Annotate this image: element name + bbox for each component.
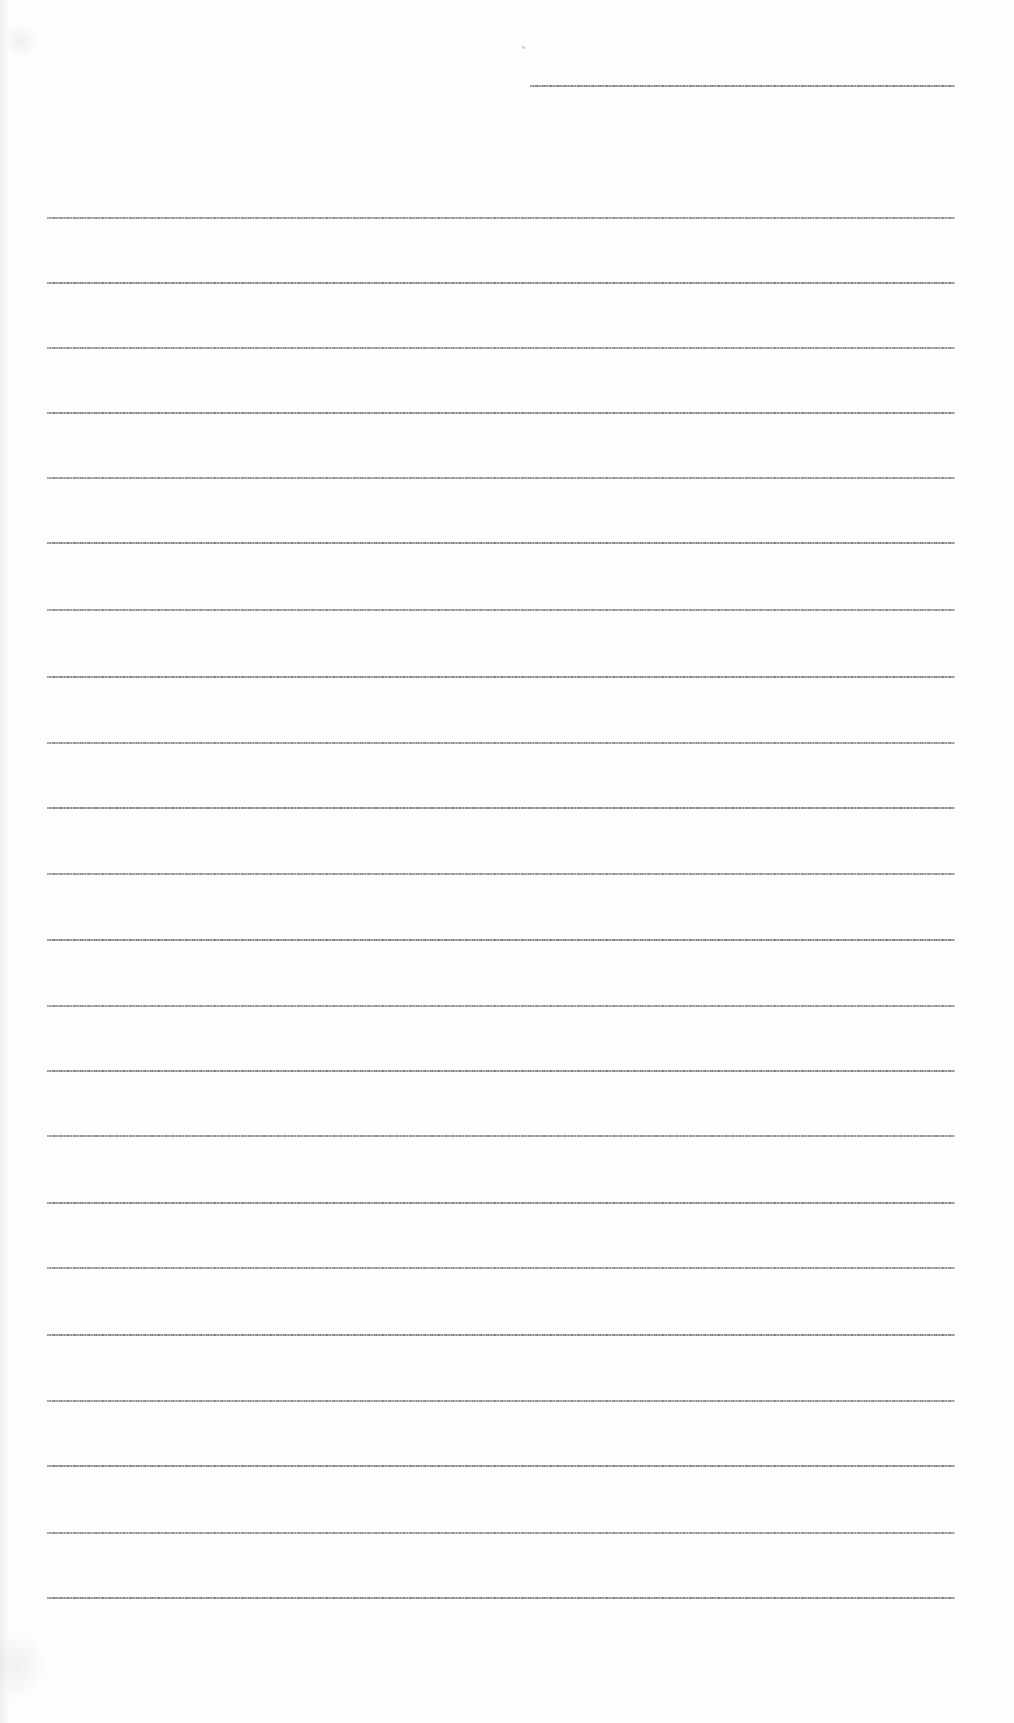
ruled-line	[47, 1334, 955, 1336]
ruled-line	[47, 217, 955, 219]
ruled-line	[47, 1465, 955, 1467]
ruled-line	[47, 1532, 955, 1534]
scanned-page	[0, 0, 1014, 1723]
ruled-line	[47, 542, 955, 544]
scan-speck	[522, 46, 525, 49]
ruled-line	[47, 1597, 955, 1599]
ruled-line	[47, 1400, 955, 1402]
scan-smudge	[0, 1630, 46, 1700]
ruled-line	[47, 347, 955, 349]
scan-smudge	[4, 24, 38, 58]
ruled-line	[47, 1135, 955, 1137]
ruled-line	[47, 1202, 955, 1204]
ruled-line	[47, 412, 955, 414]
scan-edge-shading	[0, 0, 12, 1723]
ruled-line	[47, 1267, 955, 1269]
ruled-line	[47, 873, 955, 875]
ruled-line	[47, 609, 955, 611]
ruled-line	[47, 477, 955, 479]
ruled-line	[47, 676, 955, 678]
ruled-line	[47, 939, 955, 941]
ruled-line	[47, 1005, 955, 1007]
ruled-line	[47, 282, 955, 284]
ruled-line	[47, 1070, 955, 1072]
header-blank-line	[530, 85, 955, 87]
ruled-line	[47, 807, 955, 809]
ruled-line	[47, 742, 955, 744]
